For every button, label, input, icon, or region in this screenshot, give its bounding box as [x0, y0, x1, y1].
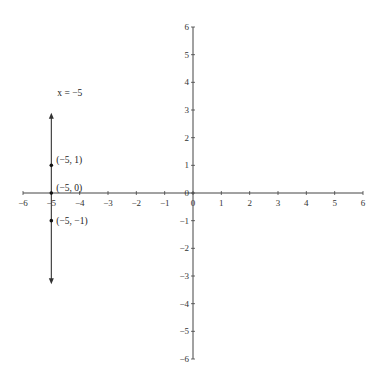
y-tick-label: 1: [185, 160, 190, 170]
x-tick-label: −1: [160, 198, 170, 208]
x-tick-label: 5: [332, 198, 337, 208]
y-tick-label: 4: [185, 77, 190, 87]
y-tick-label: 2: [185, 133, 190, 143]
y-tick-label: −4: [179, 299, 189, 309]
x-tick-label: −2: [132, 198, 142, 208]
y-tick-label: −2: [179, 243, 189, 253]
y-tick-label: 6: [185, 22, 190, 32]
point-label: (−5, −1): [56, 216, 87, 227]
data-point: [50, 191, 54, 195]
x-tick-label: 3: [276, 198, 281, 208]
y-tick-label: −6: [179, 354, 189, 364]
x-tick-label: 4: [304, 198, 309, 208]
y-tick-label: 0: [185, 188, 190, 198]
x-tick-label: 6: [361, 198, 366, 208]
data-point: [50, 164, 54, 168]
point-label: (−5, 1): [56, 155, 82, 166]
x-tick-label: 1: [219, 198, 224, 208]
y-tick-label: −1: [179, 216, 189, 226]
arrow-down-icon: [49, 278, 54, 284]
x-tick-label: −6: [18, 198, 28, 208]
coordinate-plane: −6−5−4−3−2−10123456 −6−5−4−3−2−10123456 …: [0, 0, 385, 382]
x-tick-label: 0: [191, 198, 196, 208]
y-tick-label: 5: [185, 50, 190, 60]
line-equation-label: x = −5: [57, 88, 82, 98]
y-tick-label: 3: [185, 105, 190, 115]
x-tick-label: −4: [75, 198, 85, 208]
x-tick-label: 2: [247, 198, 252, 208]
labeled-points: (−5, 1)(−5, 0)(−5, −1): [50, 155, 88, 226]
x-tick-label: −3: [103, 198, 113, 208]
y-tick-label: −5: [179, 326, 189, 336]
y-tick-label: −3: [179, 271, 189, 281]
point-label: (−5, 0): [56, 183, 82, 194]
arrow-up-icon: [49, 113, 54, 119]
data-point: [50, 219, 54, 223]
x-axis-ticks: −6−5−4−3−2−10123456: [18, 191, 366, 208]
